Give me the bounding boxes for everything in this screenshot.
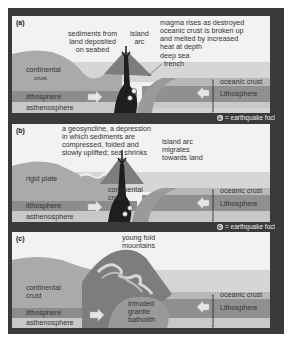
- legend-earthquake-foci-a: ⊕= earthquake foci: [217, 114, 275, 121]
- label-oceanic-crust-b: oceanic crust: [220, 187, 262, 195]
- label-asthenosphere-b: asthenosphere: [26, 213, 74, 221]
- label-trench: deep sea trench: [160, 52, 190, 68]
- earthquake-foci-icon: ⊕: [217, 115, 223, 121]
- label-young-fold-mountains: young fold mountains: [122, 234, 155, 250]
- panel-label-c: (c): [16, 235, 25, 242]
- label-rigid-plate: rigid plate: [26, 175, 57, 183]
- label-oceanic-crust: oceanic crust: [220, 78, 262, 86]
- label-lithosphere-left: lithosphere: [26, 93, 61, 101]
- label-island-arc-migrates: island arc migrates towards land: [162, 138, 203, 162]
- label-island-arc: island arc: [130, 30, 149, 46]
- panel-label-b: (b): [16, 127, 25, 134]
- panel-b: (b) a geosyncline, a depression in which…: [12, 124, 270, 222]
- label-lithosphere-right-b: Lithosphere: [220, 200, 258, 208]
- label-sediments: sediments from land deposited on seabed: [68, 30, 117, 54]
- label-magma: magma rises as destroyed oceanic crust i…: [160, 19, 244, 51]
- label-geosyncline: a geosyncline, a depression in which sed…: [62, 125, 151, 157]
- label-lithosphere-right-c: Lithosphere: [220, 304, 258, 312]
- label-oceanic-crust-c: oceanic crust: [220, 291, 262, 299]
- label-batholith: intruded granite batholith: [128, 300, 155, 324]
- panel-a: (a) sediments from land deposited on sea…: [12, 16, 270, 113]
- earthquake-foci-icon: ⊕: [217, 224, 223, 230]
- label-lithosphere-right: Lithosphere: [220, 90, 258, 98]
- panel-label-a: (a): [16, 19, 25, 26]
- panel-c: (c) young fold mountains continental cru…: [12, 232, 270, 328]
- label-continental-crust: continental crust: [26, 66, 61, 82]
- label-lithosphere-left-b: lithosphere: [26, 202, 61, 210]
- label-continental-crust-b: continental crust: [108, 186, 143, 202]
- label-continental-crust-c: continental crust: [26, 284, 61, 300]
- label-asthenosphere-c: asthenosphere: [26, 319, 74, 327]
- label-asthenosphere: asthenosphere: [26, 104, 74, 112]
- label-lithosphere-left-c: lithosphere: [26, 309, 61, 317]
- legend-earthquake-foci-b: ⊕= earthquake foci: [217, 223, 275, 230]
